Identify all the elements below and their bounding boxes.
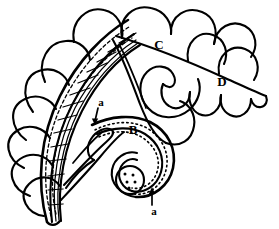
label-a-upper: a <box>98 96 104 108</box>
label-a-lower: a <box>151 205 157 217</box>
label-B: B <box>129 122 138 137</box>
checkered-grid-band-A <box>41 20 140 222</box>
pattern-figure: C D B a a <box>0 0 279 229</box>
pattern-drawing: C D B a a <box>0 0 279 229</box>
label-C: C <box>154 37 163 52</box>
label-D: D <box>217 74 226 89</box>
